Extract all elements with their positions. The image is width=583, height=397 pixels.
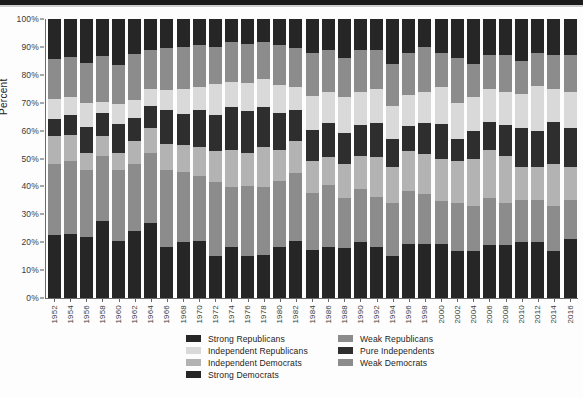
bar-segment[interactable] xyxy=(338,58,351,97)
legend-item[interactable]: Strong Republicans xyxy=(186,333,338,344)
bar-segment[interactable] xyxy=(402,53,415,95)
bar-column[interactable] xyxy=(562,19,578,298)
bar-segment[interactable] xyxy=(354,125,367,156)
bar-segment[interactable] xyxy=(257,79,270,107)
bar-segment[interactable] xyxy=(112,241,125,298)
bar-segment[interactable] xyxy=(370,123,383,157)
bar-segment[interactable] xyxy=(402,244,415,298)
bar-segment[interactable] xyxy=(144,106,157,128)
bar-segment[interactable] xyxy=(177,47,190,89)
bar-segment[interactable] xyxy=(435,87,448,124)
bar-segment[interactable] xyxy=(564,92,577,128)
bar-segment[interactable] xyxy=(209,115,222,152)
bar-segment[interactable] xyxy=(418,123,431,154)
bar-segment[interactable] xyxy=(209,182,222,255)
legend-item[interactable]: Weak Democrats xyxy=(338,357,456,368)
legend-item[interactable]: Independent Democrats xyxy=(186,357,338,368)
bar-segment[interactable] xyxy=(48,99,61,119)
bar-segment[interactable] xyxy=(547,122,560,164)
bar-segment[interactable] xyxy=(64,234,77,298)
bar-segment[interactable] xyxy=(322,92,335,123)
bar-segment[interactable] xyxy=(225,247,238,298)
bar-segment[interactable] xyxy=(48,136,61,164)
bar-column[interactable] xyxy=(127,19,143,298)
bar-segment[interactable] xyxy=(435,201,448,244)
bar-column[interactable] xyxy=(159,19,175,298)
bar-segment[interactable] xyxy=(306,53,319,96)
bar-segment[interactable] xyxy=(80,103,93,126)
bar-segment[interactable] xyxy=(547,19,560,55)
bar-segment[interactable] xyxy=(451,251,464,298)
bar-segment[interactable] xyxy=(402,19,415,53)
bar-segment[interactable] xyxy=(531,131,544,167)
bar-segment[interactable] xyxy=(418,92,431,123)
bar-segment[interactable] xyxy=(96,156,109,221)
bar-segment[interactable] xyxy=(338,248,351,298)
bar-segment[interactable] xyxy=(451,103,464,139)
bar-segment[interactable] xyxy=(144,19,157,50)
bar-column[interactable] xyxy=(514,19,530,298)
bar-segment[interactable] xyxy=(564,128,577,167)
bar-segment[interactable] xyxy=(225,42,238,82)
bar-segment[interactable] xyxy=(467,97,480,130)
bar-segment[interactable] xyxy=(112,124,125,152)
bar-segment[interactable] xyxy=(322,185,335,247)
bar-segment[interactable] xyxy=(531,19,544,52)
bar-segment[interactable] xyxy=(306,19,319,53)
bar-segment[interactable] xyxy=(80,237,93,298)
bar-segment[interactable] xyxy=(193,110,206,147)
bar-segment[interactable] xyxy=(322,157,335,185)
bar-segment[interactable] xyxy=(177,145,190,173)
bar-segment[interactable] xyxy=(64,19,77,57)
bar-column[interactable] xyxy=(256,19,272,298)
bar-segment[interactable] xyxy=(112,153,125,170)
bar-segment[interactable] xyxy=(435,124,448,158)
bar-segment[interactable] xyxy=(451,139,464,161)
bar-segment[interactable] xyxy=(467,206,480,251)
bar-segment[interactable] xyxy=(112,104,125,124)
bar-segment[interactable] xyxy=(515,94,528,127)
bar-segment[interactable] xyxy=(354,50,367,92)
bar-segment[interactable] xyxy=(483,89,496,122)
bar-segment[interactable] xyxy=(289,141,302,172)
bar-segment[interactable] xyxy=(289,241,302,298)
bar-segment[interactable] xyxy=(225,82,238,108)
bar-segment[interactable] xyxy=(386,106,399,139)
bar-segment[interactable] xyxy=(257,187,270,255)
bar-segment[interactable] xyxy=(128,54,141,101)
bar-column[interactable] xyxy=(352,19,368,298)
bar-segment[interactable] xyxy=(531,200,544,242)
bar-segment[interactable] xyxy=(483,19,496,55)
bar-column[interactable] xyxy=(369,19,385,298)
bar-segment[interactable] xyxy=(177,242,190,298)
bar-segment[interactable] xyxy=(435,244,448,298)
bar-segment[interactable] xyxy=(241,44,254,83)
bar-segment[interactable] xyxy=(80,19,93,63)
bar-segment[interactable] xyxy=(144,223,157,298)
bar-segment[interactable] xyxy=(273,45,286,85)
bar-segment[interactable] xyxy=(354,242,367,298)
bar-segment[interactable] xyxy=(177,19,190,47)
bar-segment[interactable] xyxy=(96,19,109,56)
bar-segment[interactable] xyxy=(499,55,512,91)
bar-segment[interactable] xyxy=(144,89,157,106)
legend-item[interactable]: Independent Republicans xyxy=(186,345,338,356)
bar-segment[interactable] xyxy=(209,47,222,84)
bar-column[interactable] xyxy=(385,19,401,298)
bar-segment[interactable] xyxy=(531,242,544,298)
bar-segment[interactable] xyxy=(225,150,238,187)
bar-segment[interactable] xyxy=(418,19,431,47)
bar-segment[interactable] xyxy=(499,156,512,203)
bar-segment[interactable] xyxy=(483,55,496,88)
bar-segment[interactable] xyxy=(144,50,157,89)
bar-segment[interactable] xyxy=(80,170,93,237)
legend-item[interactable]: Pure Independents xyxy=(338,345,456,356)
bar-segment[interactable] xyxy=(241,19,254,44)
bar-segment[interactable] xyxy=(322,247,335,298)
bar-segment[interactable] xyxy=(354,19,367,50)
bar-segment[interactable] xyxy=(177,89,190,114)
bar-segment[interactable] xyxy=(273,247,286,298)
bar-segment[interactable] xyxy=(547,251,560,298)
bar-segment[interactable] xyxy=(322,50,335,92)
bar-segment[interactable] xyxy=(241,111,254,153)
